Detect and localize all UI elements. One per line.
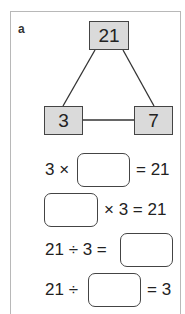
equation-row-2: × 3 = 21 (0, 193, 185, 227)
equation-row-4: 21 ÷ = 3 (0, 273, 185, 307)
equation-4-after: = 3 (147, 280, 171, 300)
equation-4-before: 21 ÷ (45, 280, 78, 300)
answer-box-3[interactable] (120, 233, 173, 267)
triangle-node-left: 3 (44, 106, 83, 135)
answer-box-1[interactable] (77, 153, 130, 187)
answer-box-2[interactable] (44, 193, 98, 227)
triangle-node-top: 21 (89, 21, 129, 50)
equation-1-before: 3 × (45, 160, 69, 180)
equation-row-1: 3 × = 21 (0, 153, 185, 187)
answer-box-4[interactable] (88, 273, 141, 307)
equation-1-after: = 21 (136, 160, 170, 180)
triangle-node-right: 7 (134, 106, 173, 135)
equation-row-3: 21 ÷ 3 = (0, 233, 185, 267)
equation-3-before: 21 ÷ 3 = (45, 240, 107, 260)
equation-2-after: × 3 = 21 (104, 200, 166, 220)
